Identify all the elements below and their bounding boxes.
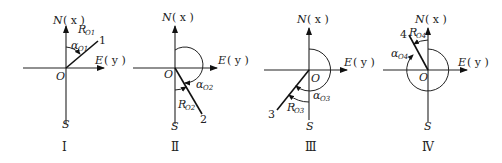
alpha-sub: O3 — [320, 95, 331, 103]
origin-label: O — [311, 72, 320, 85]
east-label: E — [94, 54, 103, 67]
origin-label: O — [419, 71, 428, 84]
north-label: N — [296, 13, 307, 26]
north-paren: ( x ) — [307, 13, 329, 26]
alpha-sub: O2 — [203, 84, 214, 92]
panel-1: N ( x ) R O1 α O1 1 E ( y ) O S Ⅰ — [23, 14, 126, 154]
line-label: 1 — [99, 34, 106, 47]
north-paren: ( x ) — [172, 11, 194, 24]
east-paren: ( y ) — [467, 56, 489, 69]
panel-roman: Ⅲ — [305, 140, 317, 154]
north-label: N — [161, 11, 172, 24]
panel-3: N ( x ) E ( y ) O α O3 R O3 3 S Ⅲ — [264, 13, 375, 154]
line-label: 3 — [268, 108, 275, 121]
azimuth-diagram: N ( x ) R O1 α O1 1 E ( y ) O S Ⅰ N ( x … — [0, 0, 502, 163]
panel-2: N ( x ) E ( y ) O α O2 R O2 2 S Ⅱ — [133, 11, 249, 154]
panel-4: N ( x ) 4 R O4 α O4 E ( y ) O S Ⅳ — [383, 13, 489, 154]
line-label: 2 — [200, 113, 207, 126]
east-paren: ( y ) — [353, 56, 375, 69]
r-sub: O3 — [294, 107, 305, 115]
south-label: S — [306, 120, 314, 133]
east-paren: ( y ) — [227, 54, 249, 67]
alpha-sub: O4 — [398, 53, 408, 61]
east-label: E — [217, 54, 226, 67]
origin-label: O — [56, 70, 65, 83]
r-arc — [175, 87, 186, 90]
r-sub: O2 — [185, 104, 196, 112]
panel-roman: Ⅳ — [422, 140, 435, 154]
east-paren: ( y ) — [104, 54, 126, 67]
north-paren: ( x ) — [425, 13, 447, 26]
line-label: 4 — [400, 28, 407, 41]
east-label: E — [343, 56, 352, 69]
alpha-sub: O1 — [78, 45, 88, 53]
panel-roman: Ⅱ — [171, 140, 179, 154]
origin-label: O — [164, 68, 173, 81]
south-label: S — [171, 120, 179, 133]
r-sub: O1 — [85, 29, 95, 37]
panel-roman: Ⅰ — [62, 140, 67, 154]
north-label: N — [414, 13, 425, 26]
south-label: S — [424, 120, 432, 133]
r-arc — [414, 40, 428, 44]
south-label: S — [62, 118, 70, 131]
north-label: N — [52, 14, 63, 27]
r-sub: O4 — [416, 32, 426, 40]
east-label: E — [457, 56, 466, 69]
